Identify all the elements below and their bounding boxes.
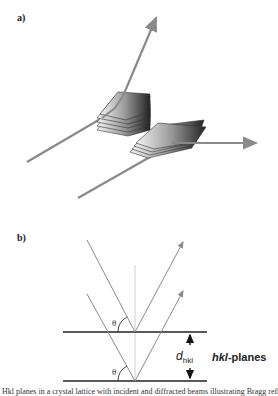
crystal-stack-1 <box>27 18 156 162</box>
panel-b-label: b) <box>17 232 26 243</box>
d-symbol: d <box>176 349 183 363</box>
planes-suffix: -planes <box>228 351 267 363</box>
theta-upper: θ <box>112 318 116 328</box>
d-subscript: hkl <box>183 356 193 365</box>
hkl-planes-label: hkl-planes <box>212 351 266 363</box>
hkl-italic: hkl <box>212 351 228 363</box>
d-spacing-label: dhkl <box>176 349 193 365</box>
theta-lower: θ <box>112 367 116 377</box>
diffraction-diagram <box>0 0 278 396</box>
figure-caption: Hkl planes in a crystal lattice with inc… <box>2 387 278 396</box>
